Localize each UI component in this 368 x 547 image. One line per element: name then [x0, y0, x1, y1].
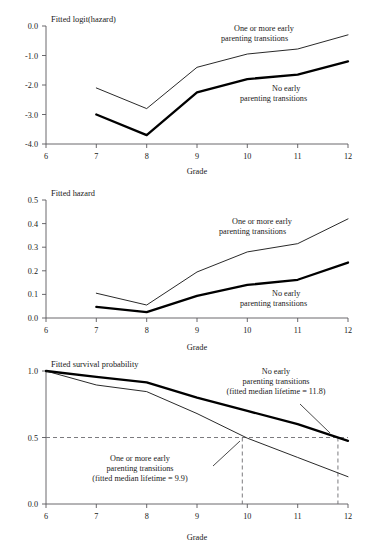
- annotation-one-or-more-line1: One or more early: [234, 24, 295, 33]
- panel-hazard: 0.5 0.4 0.3 0.2 0.1 0.0 6 7 8 9 10 11 12…: [0, 180, 368, 358]
- leader-line-one-or-more: [213, 441, 240, 466]
- panel-logit-hazard-plot: 0.0 -1.0 -2.0 -3.0 -4.0 6 7 8 9 10 11 12…: [0, 0, 368, 180]
- x-tick-label: 6: [44, 326, 48, 335]
- annotation-no-early-line3: (fitted median lifetime = 11.8): [226, 387, 325, 396]
- panel-survival-probability-plot: 1.0 0.5 0.0 6 7 8 9 10 11 12 Fitted surv…: [0, 358, 368, 547]
- x-tick-label: 8: [145, 152, 149, 161]
- x-tick-label: 11: [294, 326, 302, 335]
- annotation-no-early-line2: parenting transitions: [242, 377, 309, 386]
- x-tick-label: 6: [44, 152, 48, 161]
- y-tick-label: 0.1: [28, 290, 38, 299]
- y-tick-label: -3.0: [25, 111, 38, 120]
- leader-line-no-early: [300, 404, 330, 433]
- series-line-no-early: [96, 61, 348, 135]
- annotation-one-or-more-line2: parenting transitions: [106, 464, 173, 473]
- x-tick-label: 7: [94, 326, 98, 335]
- y-tick-label: -4.0: [25, 140, 38, 149]
- x-tick-label: 11: [294, 512, 302, 521]
- y-tick-label: 0.4: [28, 220, 38, 229]
- x-tick-label: 12: [344, 152, 352, 161]
- annotation-no-early-line1: No early: [272, 289, 301, 298]
- x-tick-label: 12: [344, 326, 352, 335]
- x-tick-label: 9: [195, 152, 199, 161]
- x-tick-label: 8: [145, 512, 149, 521]
- annotation-one-or-more-line1: One or more early: [110, 454, 171, 463]
- y-tick-label: 1.0: [28, 367, 38, 376]
- panel-title: Fitted hazard: [51, 189, 96, 198]
- annotation-no-early-line1: No early: [272, 84, 301, 93]
- x-tick-label: 7: [94, 512, 98, 521]
- annotation-one-or-more-line2: parenting transitions: [219, 227, 286, 236]
- panel-title: Fitted survival probability: [51, 360, 139, 369]
- y-tick-label: 0.0: [28, 22, 38, 31]
- annotation-one-or-more-line3: (fitted median lifetime = 9.9): [92, 474, 188, 483]
- y-tick-label: 0.5: [28, 196, 38, 205]
- y-tick-label: 0.0: [28, 500, 38, 509]
- x-axis-title: Grade: [187, 343, 208, 352]
- annotation-one-or-more-line1: One or more early: [232, 217, 293, 226]
- x-tick-label: 9: [195, 326, 199, 335]
- y-tick-label: 0.3: [28, 243, 38, 252]
- panel-logit-hazard: 0.0 -1.0 -2.0 -3.0 -4.0 6 7 8 9 10 11 12…: [0, 0, 368, 180]
- y-tick-label: -2.0: [25, 81, 38, 90]
- y-tick-label: 0.5: [28, 434, 38, 443]
- x-tick-label: 6: [44, 512, 48, 521]
- annotation-no-early-line2: parenting transitions: [240, 94, 307, 103]
- annotation-no-early-line2: parenting transitions: [240, 299, 307, 308]
- panel-title: Fitted logit(hazard): [51, 15, 116, 24]
- x-tick-label: 11: [294, 152, 302, 161]
- x-tick-label: 10: [243, 326, 251, 335]
- x-axis-title: Grade: [187, 167, 208, 176]
- x-tick-label: 12: [344, 512, 352, 521]
- x-tick-label: 10: [243, 152, 251, 161]
- panel-survival-probability: 1.0 0.5 0.0 6 7 8 9 10 11 12 Fitted surv…: [0, 358, 368, 547]
- x-axis-title: Grade: [187, 533, 208, 542]
- series-line-no-early: [96, 263, 348, 313]
- x-tick-label: 10: [243, 512, 251, 521]
- panel-hazard-plot: 0.5 0.4 0.3 0.2 0.1 0.0 6 7 8 9 10 11 12…: [0, 180, 368, 358]
- y-tick-label: 0.0: [28, 314, 38, 323]
- x-tick-label: 8: [145, 326, 149, 335]
- figure-container: 0.0 -1.0 -2.0 -3.0 -4.0 6 7 8 9 10 11 12…: [0, 0, 368, 547]
- y-tick-label: -1.0: [25, 52, 38, 61]
- x-tick-label: 7: [94, 152, 98, 161]
- y-tick-label: 0.2: [28, 267, 38, 276]
- annotation-no-early-line1: No early: [262, 367, 291, 376]
- x-tick-label: 9: [195, 512, 199, 521]
- annotation-one-or-more-line2: parenting transitions: [221, 34, 288, 43]
